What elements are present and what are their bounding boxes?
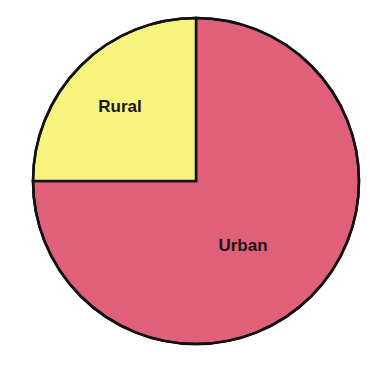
slice-label-rural: Rural (98, 97, 141, 116)
pie-chart-svg: Rural Urban (0, 0, 370, 368)
slice-label-urban: Urban (218, 236, 267, 255)
pie-chart: Rural Urban (0, 0, 370, 368)
